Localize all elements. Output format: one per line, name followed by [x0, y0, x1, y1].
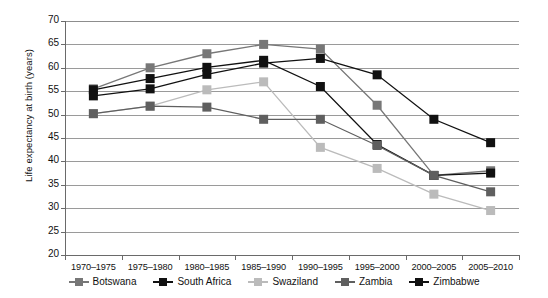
gridline [65, 208, 519, 209]
legend-swatch-icon [335, 277, 355, 286]
legend-item-label: South Africa [177, 276, 231, 287]
gridline [65, 21, 519, 22]
y-axis-tick-label: 50 [33, 108, 59, 119]
x-axis-tick-mark [179, 255, 180, 260]
x-axis-tick-mark [406, 255, 407, 260]
y-axis-tick-label: 20 [33, 248, 59, 259]
x-axis-tick-label: 1980–1985 [175, 262, 239, 272]
chart-legend: BotswanaSouth AfricaSwazilandZambiaZimba… [0, 276, 548, 287]
x-axis-tick-label: 2000–2005 [402, 262, 466, 272]
legend-item-zambia[interactable]: Zambia [335, 276, 392, 287]
gridline [65, 161, 519, 162]
legend-item-label: Swaziland [272, 276, 318, 287]
y-axis-tick-label: 55 [33, 84, 59, 95]
gridline [65, 185, 519, 186]
legend-swatch-icon [153, 277, 173, 286]
legend-item-botswana[interactable]: Botswana [69, 276, 137, 287]
y-axis-title: Life expectancy at birth (years) [23, 26, 34, 206]
x-axis-tick-mark [292, 255, 293, 260]
legend-swatch-icon [248, 277, 268, 286]
legend-item-swaziland[interactable]: Swaziland [248, 276, 318, 287]
gridline [65, 44, 519, 45]
legend-item-south-africa[interactable]: South Africa [153, 276, 231, 287]
x-axis-tick-mark [349, 255, 350, 260]
y-axis-tick-label: 30 [33, 201, 59, 212]
line-chart: Life expectancy at birth (years) 7065605… [0, 0, 548, 298]
x-axis-tick-mark [519, 255, 520, 260]
gridline [65, 91, 519, 92]
legend-square-icon [159, 278, 167, 286]
gridline [65, 68, 519, 69]
x-axis-tick-label: 1995–2000 [345, 262, 409, 272]
legend-item-label: Zambia [359, 276, 392, 287]
legend-item-label: Zimbabwe [433, 276, 479, 287]
y-axis-tick-label: 65 [33, 37, 59, 48]
x-axis-tick-label: 2005–2010 [459, 262, 523, 272]
x-axis-tick-mark [462, 255, 463, 260]
gridline [65, 115, 519, 116]
y-axis-tick-label: 70 [33, 14, 59, 25]
plot-area [65, 21, 519, 255]
legend-square-icon [341, 278, 349, 286]
x-axis-tick-mark [122, 255, 123, 260]
legend-square-icon [75, 278, 83, 286]
x-axis-tick-label: 1990–1995 [288, 262, 352, 272]
y-axis-tick-label: 45 [33, 131, 59, 142]
gridline [65, 232, 519, 233]
x-axis-tick-mark [235, 255, 236, 260]
y-axis-tick-label: 60 [33, 61, 59, 72]
legend-item-zimbabwe[interactable]: Zimbabwe [409, 276, 479, 287]
x-axis-tick-label: 1975–1980 [118, 262, 182, 272]
legend-square-icon [254, 278, 262, 286]
gridline [65, 138, 519, 139]
legend-swatch-icon [409, 277, 429, 286]
y-axis-line [65, 21, 66, 256]
x-axis-tick-label: 1985–1990 [232, 262, 296, 272]
x-axis-tick-label: 1970–1975 [61, 262, 125, 272]
y-axis-tick-label: 40 [33, 154, 59, 165]
y-axis-tick-label: 25 [33, 225, 59, 236]
legend-item-label: Botswana [93, 276, 137, 287]
y-axis-tick-label: 35 [33, 178, 59, 189]
legend-square-icon [415, 278, 423, 286]
legend-swatch-icon [69, 277, 89, 286]
x-axis-tick-mark [65, 255, 66, 260]
